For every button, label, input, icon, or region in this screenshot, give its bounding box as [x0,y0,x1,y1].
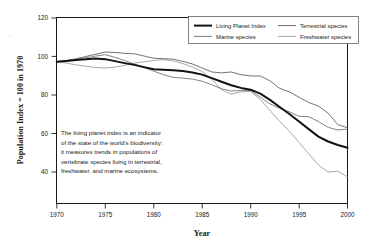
legend-label-living-planet-index: Living Planet Index [216,23,266,29]
x-tick-label: 1970 [50,211,65,218]
annotation-line: it measures trends in populations of [61,148,158,155]
chart-annotation: The living planet index is an indicator … [61,129,163,174]
y-axis-ticks [52,18,57,172]
x-tick-label: 1980 [147,211,162,218]
x-tick-label: 1985 [195,211,210,218]
legend-label-terrestrial-species: Terrestrial species [300,23,348,29]
chart-legend[interactable]: Living Planet Index Terrestrial species … [189,17,359,44]
line-chart: 120 100 80 60 40 1970 1975 1980 1985 199… [0,0,386,246]
x-tick-label: 1995 [292,211,307,218]
y-tick-label: 120 [37,14,48,21]
y-tick-label: 100 [37,53,48,60]
x-tick-label: 2000 [340,211,355,218]
x-tick-label: 1975 [98,211,113,218]
y-tick-label: 60 [41,130,49,137]
margin-mark: · [9,33,11,39]
y-axis-title: Population Index = 100 in 1970 [16,56,25,165]
y-axis-tick-labels: 120 100 80 60 40 [37,14,48,175]
chart-figure: 120 100 80 60 40 1970 1975 1980 1985 199… [0,0,386,246]
plot-area-frame [57,18,348,204]
annotation-line: freshwater, and marine ecosystems. [61,167,159,174]
y-tick-label: 80 [41,91,49,98]
legend-label-freshwater-species: Freshwater species [300,34,351,40]
annotation-line: of the state of the world's biodiversity… [61,139,163,146]
x-axis-title: Year [194,229,211,238]
annotation-line: vertebrate species living in terrestrial… [61,158,162,165]
x-axis-ticks [57,204,348,209]
legend-label-marine-species: Marine species [216,34,256,40]
x-axis-tick-labels: 1970 1975 1980 1985 1990 1995 2000 [50,211,355,218]
x-tick-label: 1990 [244,211,259,218]
annotation-line: The living planet index is an indicator [61,129,161,136]
y-tick-label: 40 [41,168,49,175]
